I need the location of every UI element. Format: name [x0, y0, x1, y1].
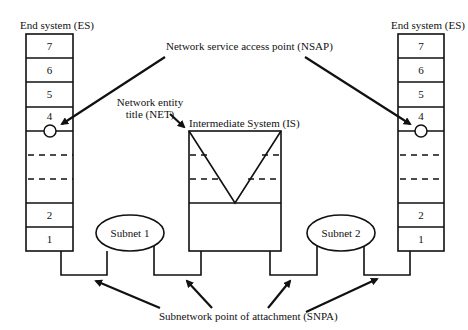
- es-left-layer-7: 7: [47, 40, 53, 52]
- es-left-layer-1: 1: [47, 233, 53, 245]
- es-right-layer-1: 1: [418, 233, 424, 245]
- nsap-arrow-right-icon: [305, 57, 410, 124]
- snpa-arrow-2-icon: [187, 281, 212, 308]
- subnet-1-label: Subnet 1: [111, 227, 150, 239]
- es-left-layer-6: 6: [47, 64, 53, 76]
- osi-addressing-diagram: End system (ES) 7 6 5 4 2 1 Subnet 1 Int…: [0, 0, 468, 330]
- snpa-arrow-3-icon: [268, 281, 290, 308]
- es-right-layer-2: 2: [418, 209, 424, 221]
- nsap-circle-right-icon: [415, 125, 427, 137]
- es-right-title: End system (ES): [391, 19, 465, 32]
- subnet-1: Subnet 1: [96, 215, 201, 275]
- es-left-layer-2: 2: [47, 209, 53, 221]
- snpa-label: Subnetwork point of attachment (SNPA): [159, 310, 338, 323]
- snpa-arrow-1-icon: [96, 281, 160, 308]
- is-box: [189, 131, 281, 251]
- snpa-arrow-4-icon: [306, 279, 377, 312]
- es-left-title: End system (ES): [20, 19, 94, 32]
- subnet-2-label: Subnet 2: [322, 227, 361, 239]
- intermediate-system: Intermediate System (IS): [189, 117, 317, 275]
- net-arrow-icon: [170, 114, 184, 127]
- net-label-line1: Network entity: [117, 96, 184, 108]
- es-right-layer-6: 6: [418, 64, 424, 76]
- es-left-layer-5: 5: [47, 88, 53, 100]
- nsap-label: Network service access point (NSAP): [166, 40, 333, 53]
- es-right-layer-5: 5: [418, 88, 424, 100]
- end-system-left: End system (ES) 7 6 5 4 2 1: [20, 19, 107, 275]
- subnet-2: Subnet 2: [307, 215, 410, 275]
- es-left-layer-4: 4: [47, 110, 53, 122]
- net-label-line2: title (NET): [126, 108, 175, 121]
- es-right-layer-7: 7: [418, 40, 424, 52]
- nsap-circle-left-icon: [44, 125, 56, 137]
- es-right-layer-4: 4: [418, 110, 424, 122]
- es-left-snpa-link: [61, 251, 107, 275]
- end-system-right: End system (ES) 7 6 5 4 2 1: [391, 19, 465, 251]
- is-title: Intermediate System (IS): [189, 117, 300, 130]
